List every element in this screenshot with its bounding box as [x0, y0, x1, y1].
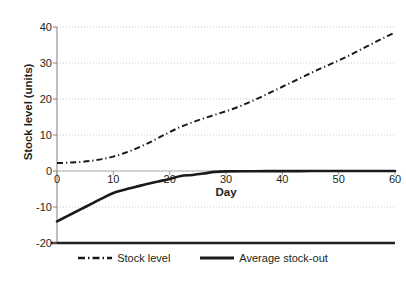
x-tick-label: 50	[323, 174, 355, 185]
y-tick-label: -10	[18, 202, 52, 213]
x-tick-label: 20	[154, 174, 186, 185]
series-line-stock-level	[57, 32, 395, 163]
x-tick-label: 40	[266, 174, 298, 185]
stock-level-chart: Stock level (units) Day -20-10010203040 …	[0, 0, 406, 281]
legend-label-stock-level: Stock level	[117, 252, 170, 264]
y-tick-label: -20	[18, 238, 52, 249]
x-axis-title: Day	[57, 186, 395, 198]
legend-item-stock-level: Stock level	[78, 252, 170, 264]
legend-swatch-solid-icon	[200, 253, 234, 263]
y-tick-label: 30	[18, 58, 52, 69]
legend-swatch-dash-dot-icon	[78, 253, 112, 263]
x-tick-label: 10	[97, 174, 129, 185]
x-tick-label: 30	[210, 174, 242, 185]
x-tick-label: 0	[41, 174, 73, 185]
y-tick-label: 40	[18, 22, 52, 33]
legend-label-average-stock-out: Average stock-out	[239, 252, 327, 264]
plot-area	[0, 0, 406, 281]
legend-item-average-stock-out: Average stock-out	[200, 252, 327, 264]
chart-legend: Stock level Average stock-out	[0, 252, 406, 264]
x-tick-label: 60	[379, 174, 406, 185]
y-tick-label: 20	[18, 94, 52, 105]
y-tick-label: 10	[18, 130, 52, 141]
